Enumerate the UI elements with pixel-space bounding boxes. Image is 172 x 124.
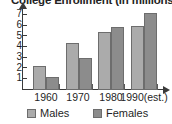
legend-swatch-females	[93, 109, 102, 118]
y-axis-tick-mark	[23, 25, 27, 26]
y-axis-tick-label: 6	[8, 20, 22, 30]
chart-legend: MalesFemales	[0, 106, 172, 122]
y-axis-tick: 7	[0, 9, 30, 19]
y-axis-tick-mark	[23, 67, 27, 68]
y-axis-tick-label: 4	[8, 41, 22, 51]
y-axis-tick-mark	[23, 46, 27, 47]
x-axis-group-separator	[59, 84, 60, 90]
y-axis-tick: 4	[0, 41, 30, 51]
y-axis-tick-label: 3	[8, 52, 22, 62]
bar-group	[98, 7, 124, 90]
x-axis-group-separator	[124, 84, 125, 90]
x-axis-label-1990: 1990(est.)	[118, 91, 170, 104]
legend-label-females: Females	[106, 107, 148, 120]
bar-females-1960	[46, 77, 59, 90]
x-axis-group-separator	[92, 84, 93, 90]
bar-group	[131, 7, 157, 90]
y-axis-tick: 6	[0, 20, 30, 30]
bar-group	[33, 7, 59, 90]
bar-males-1990	[131, 26, 144, 90]
bar-females-1980	[111, 27, 124, 90]
bar-females-1970	[79, 58, 92, 90]
y-axis-tick-label: 1	[8, 73, 22, 83]
y-axis-tick-mark	[23, 14, 27, 15]
bar-chart: College Enrollment (in millions) 7654321…	[0, 0, 172, 124]
plot-area: 7654321	[0, 6, 172, 90]
bar-males-1960	[33, 66, 46, 91]
y-axis-tick: 5	[0, 31, 30, 41]
x-axis-group-separator	[157, 84, 158, 90]
y-axis-tick-mark	[23, 35, 27, 36]
legend-swatch-males	[27, 109, 36, 118]
bar-males-1970	[66, 43, 79, 90]
legend-item-males[interactable]: Males	[27, 106, 69, 120]
y-axis-tick-label: 5	[8, 31, 22, 41]
y-axis-tick: 2	[0, 63, 30, 73]
y-axis-tick-label: 7	[8, 9, 22, 19]
bar-males-1980	[98, 32, 111, 90]
legend-label-males: Males	[40, 107, 69, 120]
y-axis-tick-mark	[23, 78, 27, 79]
bar-females-1990	[144, 13, 157, 90]
y-axis-tick-label: 2	[8, 63, 22, 73]
y-axis-tick: 3	[0, 52, 30, 62]
y-axis-tick: 1	[0, 73, 30, 83]
bar-group	[66, 7, 92, 90]
y-axis-tick-mark	[23, 57, 27, 58]
legend-item-females[interactable]: Females	[93, 106, 148, 120]
x-axis-labels: 1960197019801990(est.)	[0, 91, 172, 105]
